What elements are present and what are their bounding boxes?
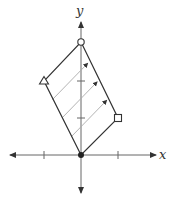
open-circle-icon bbox=[78, 39, 84, 45]
translation-arrows bbox=[53, 64, 107, 137]
y-axis-label: y bbox=[76, 4, 83, 17]
translation-arrow-1 bbox=[72, 101, 107, 137]
open-square-icon bbox=[115, 115, 122, 122]
x-axis-label: x bbox=[159, 148, 166, 161]
coordinate-plane bbox=[0, 0, 172, 199]
origin-dot-icon bbox=[78, 152, 84, 158]
translation-arrow-2 bbox=[62, 82, 97, 118]
diagram-canvas: y x bbox=[0, 0, 172, 199]
